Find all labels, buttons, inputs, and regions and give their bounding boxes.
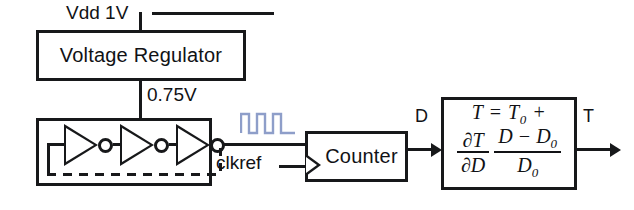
vdd-rail-wire [152,12,274,15]
equation-T0: T [508,101,520,123]
equation-slope-fraction: ∂T ∂D [457,130,489,175]
inverter-3-body [178,128,206,162]
equation-ratio-fraction: D − D0 D0 [494,126,561,179]
equation-T: T [472,101,483,123]
equation-line-2: ∂T ∂D D − D0 D0 [441,126,577,179]
equation-ratio-numerator: D − D0 [494,126,561,151]
feedback-left-riser [47,143,50,175]
inverter-1-bubble-icon [98,138,113,153]
oscillator-output-wire [222,143,308,146]
circuit-diagram: Vdd 1V Voltage Regulator 0.75V clkref Co… [0,0,634,210]
equation-slope-denominator: ∂D [457,151,489,175]
inverter-2-bubble-icon [154,138,169,153]
regulated-supply-wire [139,81,142,120]
equation-slope-numerator: ∂T [457,130,489,151]
equation-ratio-minus: − [518,125,532,147]
regulated-voltage-label: 0.75V [147,84,197,106]
voltage-regulator-block: Voltage Regulator [36,30,246,81]
equation-equals: = [489,101,503,123]
count-output-label: D [415,106,428,127]
temperature-output-label: T [583,106,594,127]
inverter-1-body [66,128,94,162]
clkref-to-counter-wire [279,165,307,168]
temperature-output-arrowhead-icon [610,143,621,157]
feedback-dashed-wire [47,173,222,176]
clock-waveform-icon [240,110,296,136]
inverter-2-body [122,128,150,162]
equation-ratio-D0: D [536,125,550,147]
equation-ratio-den-D: D [517,154,531,176]
counter-clock-input-body [306,157,317,173]
equation-ratio-denominator: D0 [494,151,561,179]
equation-line-1: T = T0 + [441,102,577,126]
counter-label: Counter [315,145,398,168]
equation-ratio-D0-subscript: 0 [551,136,558,151]
voltage-regulator-label: Voltage Regulator [60,44,222,67]
equation-ratio-D: D [498,125,512,147]
equation-plus: + [532,101,546,123]
equation-ratio-den-subscript: 0 [532,165,539,180]
clkref-label: clkref [216,152,261,174]
vdd-supply-label: Vdd 1V [66,2,128,24]
vdd-drop-wire [139,12,142,32]
